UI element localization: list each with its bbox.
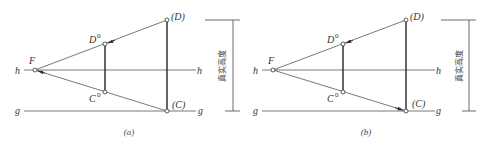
label-h-left: h xyxy=(15,65,20,76)
label-C: (C) xyxy=(412,98,426,110)
label-D0: D xyxy=(88,34,97,45)
point-D xyxy=(404,18,408,22)
label-g-left: g xyxy=(15,105,20,116)
ray-F-D xyxy=(273,20,406,70)
label-C: (C) xyxy=(172,99,186,111)
label-C0: C xyxy=(89,93,96,104)
arrow-to-C xyxy=(395,108,403,110)
ray-F-C xyxy=(273,70,406,111)
panel-b: F D 0 C 0 (D) (C) h h g g 真实高度 (b) xyxy=(253,11,476,137)
label-C0: C xyxy=(327,93,334,104)
label-D: (D) xyxy=(410,11,425,23)
caption-a: (a) xyxy=(124,127,135,137)
label-C0-sup: 0 xyxy=(335,91,339,99)
point-D xyxy=(165,18,169,22)
point-C0 xyxy=(103,90,107,94)
label-C0-sup: 0 xyxy=(97,91,101,99)
point-F xyxy=(33,68,37,72)
label-g-left: g xyxy=(253,105,258,116)
point-C0 xyxy=(341,90,345,94)
dimension-label: 真实高度 xyxy=(454,50,464,82)
dimension-label: 真实高度 xyxy=(217,50,227,82)
label-D0: D xyxy=(326,34,335,45)
point-C xyxy=(165,109,169,113)
perspective-diagram: F D 0 C 0 (D) (C) h h g g 真实高度 (a) F D 0 xyxy=(0,0,484,145)
label-D0-sup: 0 xyxy=(335,32,339,40)
label-h-right: h xyxy=(436,65,441,76)
ray-F-D xyxy=(35,20,167,70)
arrow-to-F xyxy=(38,71,45,73)
point-D0 xyxy=(341,42,345,46)
panel-a: F D 0 C 0 (D) (C) h h g g 真实高度 (a) xyxy=(15,11,240,137)
label-g-right: g xyxy=(198,105,203,116)
label-F: F xyxy=(28,55,36,66)
point-F xyxy=(271,68,275,72)
point-D0 xyxy=(103,42,107,46)
label-h-left: h xyxy=(253,65,258,76)
label-D: (D) xyxy=(171,11,186,23)
point-C xyxy=(404,109,408,113)
label-g-right: g xyxy=(436,105,441,116)
label-F: F xyxy=(267,55,275,66)
ray-F-C xyxy=(35,70,167,111)
label-h-right: h xyxy=(197,65,202,76)
caption-b: (b) xyxy=(361,127,372,137)
arrow-to-D0 xyxy=(346,40,353,43)
label-D0-sup: 0 xyxy=(97,32,101,40)
